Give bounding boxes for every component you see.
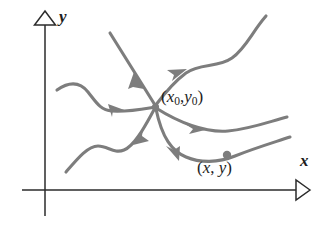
pt-comma: , (210, 158, 219, 177)
curve-right-middle (156, 108, 287, 134)
x-axis-label: x (300, 152, 309, 169)
equilibrium-point-label: (x0,y0) (161, 88, 203, 108)
eq-y-var: y (184, 87, 192, 106)
pt-close-paren: ) (226, 158, 232, 177)
solution-point-label: (x, y) (197, 159, 232, 176)
x-axis (22, 180, 310, 200)
axis-arrow-right-icon (296, 180, 310, 200)
phase-plane-figure: y x (x0,y0) (x, y) (0, 0, 325, 227)
equilibrium-node-dot (152, 103, 159, 110)
curve-left-wavy (57, 84, 155, 117)
axis-arrow-up-icon (35, 11, 56, 25)
curve-lower-left-wavy (66, 108, 155, 172)
eq-close-paren: ) (198, 87, 204, 106)
curve-lower-right (156, 109, 290, 161)
y-axis (35, 11, 56, 216)
curve-upper-left-straight (110, 33, 155, 105)
y-axis-label: y (59, 8, 67, 25)
